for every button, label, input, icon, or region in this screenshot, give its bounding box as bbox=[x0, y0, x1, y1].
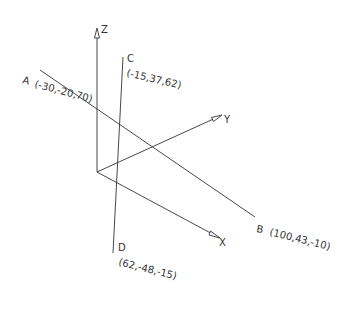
point-d-coords: (62,-48,-15) bbox=[118, 256, 179, 281]
point-c-coords: (-15,37,62) bbox=[126, 67, 183, 90]
y-axis-line bbox=[97, 116, 220, 172]
y-axis-arrow-icon bbox=[212, 115, 223, 122]
point-a-name: A bbox=[22, 74, 31, 86]
z-axis-label: Z bbox=[101, 24, 108, 35]
point-b-coords: (100,43,-10) bbox=[269, 226, 332, 252]
z-axis-arrow-icon bbox=[95, 28, 100, 38]
point-a-coords: (-30,-20,70) bbox=[33, 78, 93, 104]
line-cd bbox=[113, 57, 123, 253]
diagram-canvas: Z Y X A (-30,-20,70) B (100,43,-10) C (-… bbox=[0, 0, 346, 314]
x-axis-label: X bbox=[219, 237, 226, 248]
point-d-name: D bbox=[118, 242, 126, 253]
point-c-name: C bbox=[127, 53, 134, 64]
y-axis-label: Y bbox=[223, 114, 231, 125]
point-b-name: B bbox=[256, 223, 265, 235]
